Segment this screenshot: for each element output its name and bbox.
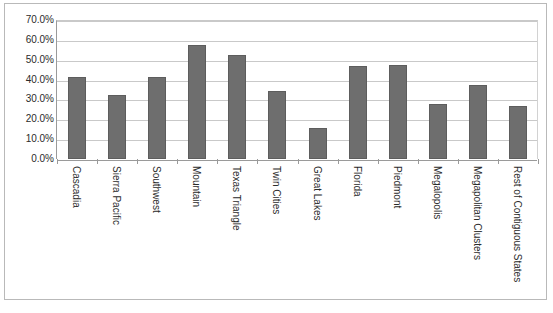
category-tick xyxy=(137,159,138,164)
bar-slot xyxy=(137,20,177,159)
bar[interactable] xyxy=(349,66,367,159)
y-axis-tick-label: 30.0% xyxy=(8,94,54,104)
category-tick xyxy=(57,159,58,164)
category-tick-marks xyxy=(57,159,538,165)
category-tick xyxy=(418,159,419,164)
bar[interactable] xyxy=(228,55,246,159)
y-axis-tick-label: 10.0% xyxy=(8,134,54,144)
bar-slot xyxy=(458,20,498,159)
chart-frame: 70.0%60.0%50.0%40.0%30.0%20.0%10.0%0.0% … xyxy=(4,3,547,300)
bar-slot xyxy=(338,20,378,159)
category-label-slot: Florida xyxy=(338,166,378,298)
bar[interactable] xyxy=(148,77,166,159)
y-axis-tick-labels: 70.0%60.0%50.0%40.0%30.0%20.0%10.0%0.0% xyxy=(5,20,54,159)
category-tick xyxy=(498,159,499,164)
category-tick xyxy=(97,159,98,164)
category-label-slot: Southwest xyxy=(137,166,177,298)
category-tick xyxy=(257,159,258,164)
category-label-slot: Mountain xyxy=(177,166,217,298)
category-label: Sierra Pacific xyxy=(111,166,121,225)
category-label: Great Lakes xyxy=(312,166,322,220)
bar[interactable] xyxy=(429,104,447,159)
bar[interactable] xyxy=(389,65,407,159)
category-label-slot: Megapolitan Clusters xyxy=(458,166,498,298)
bar-slot xyxy=(257,20,297,159)
bar-slot xyxy=(378,20,418,159)
category-label-slot: Piedmont xyxy=(378,166,418,298)
y-axis-tick-label: 0.0% xyxy=(8,154,54,164)
category-label: Rest of Contiguous States xyxy=(512,166,522,282)
category-label: Mountain xyxy=(191,166,201,207)
category-label-slot: Sierra Pacific xyxy=(97,166,137,298)
bar[interactable] xyxy=(509,106,527,159)
bar[interactable] xyxy=(469,85,487,159)
category-label: Megalopolis xyxy=(432,166,442,219)
category-label: Twin Cities xyxy=(271,166,281,214)
bar-slot xyxy=(298,20,338,159)
bar-slot xyxy=(177,20,217,159)
category-tick xyxy=(458,159,459,164)
category-label: Southwest xyxy=(151,166,161,213)
category-tick xyxy=(217,159,218,164)
bar[interactable] xyxy=(68,77,86,159)
category-label: Piedmont xyxy=(392,166,402,208)
category-tick xyxy=(538,159,539,164)
category-label: Megapolitan Clusters xyxy=(472,166,482,260)
category-tick xyxy=(378,159,379,164)
category-tick xyxy=(298,159,299,164)
bar-slot xyxy=(57,20,97,159)
category-label-slot: Megalopolis xyxy=(418,166,458,298)
category-label-slot: Twin Cities xyxy=(257,166,297,298)
bar[interactable] xyxy=(268,91,286,160)
category-tick xyxy=(177,159,178,164)
bar[interactable] xyxy=(309,128,327,159)
category-label: Texas Triangle xyxy=(231,166,241,230)
category-label-slot: Rest of Contiguous States xyxy=(498,166,538,298)
y-axis-tick-label: 40.0% xyxy=(8,75,54,85)
category-axis-labels: CascadiaSierra PacificSouthwestMountainT… xyxy=(57,166,538,298)
y-axis-tick-label: 20.0% xyxy=(8,114,54,124)
bar[interactable] xyxy=(108,95,126,159)
y-axis-tick-label: 60.0% xyxy=(8,35,54,45)
category-label-slot: Cascadia xyxy=(57,166,97,298)
y-axis-tick-label: 50.0% xyxy=(8,55,54,65)
category-tick xyxy=(338,159,339,164)
y-axis-tick-label: 70.0% xyxy=(8,15,54,25)
bar-slot xyxy=(217,20,257,159)
category-label-slot: Texas Triangle xyxy=(217,166,257,298)
bar-slot xyxy=(97,20,137,159)
bars-layer xyxy=(57,20,538,159)
bar[interactable] xyxy=(188,45,206,159)
bar-slot xyxy=(418,20,458,159)
category-label: Florida xyxy=(352,166,362,197)
category-label-slot: Great Lakes xyxy=(298,166,338,298)
bar-slot xyxy=(498,20,538,159)
category-label: Cascadia xyxy=(71,166,81,208)
